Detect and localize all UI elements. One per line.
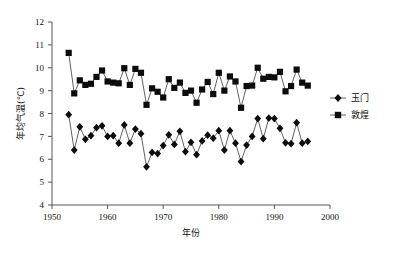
- data-point-marker: [260, 76, 266, 82]
- data-point-marker: [116, 80, 122, 86]
- y-tick-label: 8: [40, 109, 45, 119]
- data-point-marker: [255, 65, 261, 71]
- data-point-marker: [188, 88, 194, 94]
- data-point-marker: [271, 74, 277, 80]
- y-tick-label: 11: [35, 40, 44, 50]
- data-point-marker: [266, 74, 272, 80]
- data-point-marker: [105, 78, 111, 84]
- y-axis-title: 年均气温(℃): [15, 87, 26, 140]
- x-tick-label: 1960: [99, 212, 118, 222]
- data-point-marker: [93, 74, 99, 80]
- data-point-marker: [132, 66, 138, 72]
- data-point-marker: [227, 73, 233, 79]
- data-point-marker: [221, 88, 227, 94]
- y-tick-label: 6: [40, 154, 45, 164]
- data-point-marker: [66, 50, 72, 56]
- data-point-marker: [99, 67, 105, 73]
- data-point-marker: [299, 80, 305, 86]
- data-point-marker: [199, 86, 205, 92]
- data-point-marker: [277, 69, 283, 75]
- data-point-marker: [121, 65, 127, 71]
- y-tick-label: 5: [40, 177, 45, 187]
- x-tick-label: 1980: [210, 212, 229, 222]
- y-tick-label: 9: [40, 86, 45, 96]
- data-point-marker: [143, 102, 149, 108]
- x-tick-label: 1970: [154, 212, 173, 222]
- data-point-marker: [216, 70, 222, 76]
- y-tick-label: 12: [35, 17, 44, 27]
- data-point-marker: [88, 81, 94, 87]
- y-tick-label: 10: [35, 63, 45, 73]
- data-point-marker: [171, 85, 177, 91]
- data-point-marker: [149, 85, 155, 91]
- data-point-marker: [249, 82, 255, 88]
- data-point-marker: [205, 79, 211, 85]
- data-point-marker: [282, 88, 288, 94]
- data-point-marker: [110, 80, 116, 86]
- data-point-marker: [127, 82, 133, 88]
- y-tick-label: 7: [40, 132, 45, 142]
- data-point-marker: [71, 90, 77, 96]
- x-tick-label: 1950: [43, 212, 62, 222]
- y-tick-label: 4: [40, 200, 45, 210]
- data-point-marker: [305, 82, 311, 88]
- data-point-marker: [244, 83, 250, 89]
- legend-marker-square: [335, 112, 341, 118]
- data-point-marker: [193, 100, 199, 106]
- data-point-marker: [155, 89, 161, 95]
- x-tick-label: 1990: [265, 212, 284, 222]
- data-point-marker: [82, 82, 88, 88]
- data-point-marker: [166, 76, 172, 82]
- data-point-marker: [238, 105, 244, 111]
- data-point-marker: [294, 66, 300, 72]
- data-point-marker: [288, 83, 294, 89]
- data-point-marker: [177, 80, 183, 86]
- data-point-marker: [210, 91, 216, 97]
- data-point-marker: [232, 78, 238, 84]
- data-point-marker: [182, 90, 188, 96]
- data-point-marker: [138, 70, 144, 76]
- chart-canvas: 456789101112 195019601970198019902000 玉门…: [0, 0, 394, 253]
- x-axis-title: 年份: [182, 227, 200, 238]
- legend-label: 玉门: [351, 92, 369, 103]
- data-point-marker: [77, 77, 83, 83]
- x-tick-label: 2000: [321, 212, 340, 222]
- data-point-marker: [160, 94, 166, 100]
- legend-label: 敦煌: [351, 109, 369, 120]
- temperature-line-chart: 456789101112 195019601970198019902000 玉门…: [0, 0, 394, 253]
